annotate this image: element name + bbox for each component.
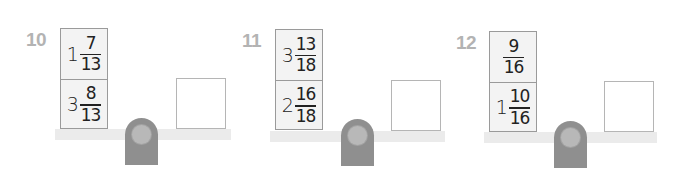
whole-number: 1 <box>496 98 508 117</box>
fraction: 10 16 <box>509 88 531 126</box>
numerator: 9 <box>508 38 520 55</box>
weight-block: 1 10 16 <box>490 82 536 132</box>
weight-block: 9 16 <box>490 32 536 82</box>
weight-stack: 9 16 1 10 16 <box>489 31 537 132</box>
answer-box[interactable] <box>604 81 654 132</box>
fraction: 9 16 <box>503 38 525 76</box>
problem-12: 12 9 16 1 10 16 <box>0 0 690 178</box>
pivot-circle-icon <box>561 128 580 147</box>
numerator: 10 <box>509 88 531 105</box>
problem-number: 12 <box>456 33 476 52</box>
fulcrum <box>554 121 587 168</box>
denominator: 16 <box>509 110 531 127</box>
denominator: 16 <box>503 59 525 76</box>
